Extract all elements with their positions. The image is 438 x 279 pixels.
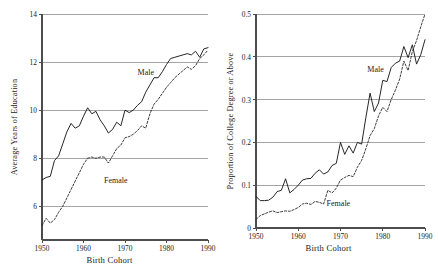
series-line-female	[42, 50, 208, 226]
y-tick-label: 0.4	[230, 52, 251, 61]
series-annotation-male: Male	[367, 65, 383, 74]
y-tick-label: 10	[16, 106, 37, 115]
y-tick-label: 6	[16, 202, 37, 211]
series-line-male	[42, 48, 208, 180]
x-tick-label: 1980	[159, 244, 174, 253]
y-tick-label: 14	[16, 10, 37, 19]
x-axis-label-left: Birth Cohort	[0, 255, 219, 265]
y-tick-label: 12	[16, 58, 37, 67]
x-tick-label: 1990	[418, 232, 433, 241]
x-tick-label: 1950	[35, 244, 50, 253]
x-tick-label: 1970	[118, 244, 133, 253]
x-tick-label: 1970	[333, 232, 348, 241]
x-tick-label: 1990	[201, 244, 216, 253]
series-annotation-female: Female	[327, 199, 351, 208]
figure-two-panel-line-charts: Average Years of Education Birth Cohort …	[0, 0, 438, 279]
y-axis-label-right: Proportion of College Degree or Above	[226, 14, 235, 228]
series-annotation-male: Male	[138, 68, 154, 77]
plot-area-left	[0, 0, 219, 279]
x-tick-label: 1960	[76, 244, 91, 253]
series-line-female	[256, 14, 425, 219]
y-tick-label: 0.2	[230, 138, 251, 147]
y-tick-label: 8	[16, 154, 37, 163]
chart-panel-proportion-college-degree: Proportion of College Degree or Above Bi…	[219, 0, 438, 279]
y-tick-label: 0.1	[230, 181, 251, 190]
series-annotation-female: Female	[104, 176, 128, 185]
y-tick-label: 0.3	[230, 95, 251, 104]
chart-panel-average-years-of-education: Average Years of Education Birth Cohort …	[0, 0, 219, 279]
x-tick-label: 1950	[249, 232, 264, 241]
x-axis-label-right: Birth Cohort	[219, 243, 438, 253]
y-tick-label: 0.5	[230, 10, 251, 19]
series-line-male	[256, 40, 425, 201]
x-tick-label: 1980	[375, 232, 390, 241]
x-tick-label: 1960	[291, 232, 306, 241]
